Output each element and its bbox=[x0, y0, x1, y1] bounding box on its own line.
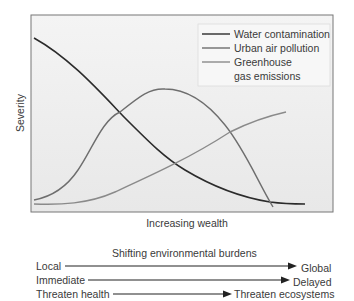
label-delayed: Delayed bbox=[293, 276, 332, 288]
legend: Water contamination Urban air pollution … bbox=[198, 24, 330, 86]
legend-label-urban: Urban air pollution bbox=[234, 42, 319, 54]
legend-label-greenhouse-2: gas emissions bbox=[234, 70, 301, 82]
label-global: Global bbox=[301, 262, 331, 274]
label-threaten-ecosystems: Threaten ecosystems bbox=[234, 288, 334, 300]
label-immediate: Immediate bbox=[36, 274, 85, 286]
x-axis-label: Increasing wealth bbox=[146, 217, 228, 229]
label-threaten-health: Threaten health bbox=[36, 288, 110, 300]
legend-label-greenhouse-1: Greenhouse bbox=[234, 56, 292, 68]
legend-label-water: Water contamination bbox=[234, 28, 330, 40]
label-local: Local bbox=[36, 260, 61, 272]
burden-title: Shifting environmental burdens bbox=[112, 247, 257, 259]
y-axis-label: Severity bbox=[14, 93, 26, 132]
